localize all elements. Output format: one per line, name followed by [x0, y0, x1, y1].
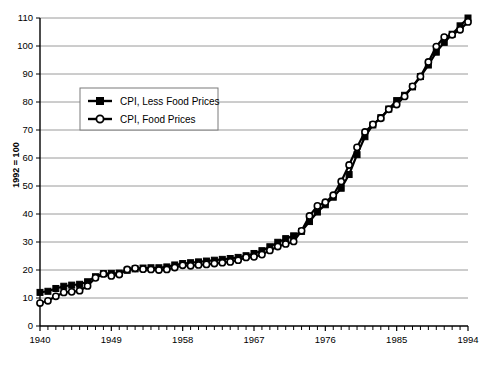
data-point: [45, 288, 51, 294]
data-point: [156, 267, 162, 273]
x-tick-label-1994: 1994: [457, 334, 478, 345]
data-point: [53, 285, 59, 291]
data-point: [346, 162, 352, 168]
cpi-line-chart: 1992 = 100 1940194919581967197619851994 …: [0, 0, 482, 367]
data-point: [306, 213, 312, 219]
x-tick-label-1949: 1949: [101, 334, 122, 345]
legend-label: CPI, Food Prices: [120, 114, 196, 125]
data-point: [69, 282, 75, 288]
data-point: [441, 34, 447, 40]
data-point: [267, 247, 273, 253]
data-point: [394, 101, 400, 107]
data-point: [219, 260, 225, 266]
data-point: [187, 263, 193, 269]
x-tick-label-1967: 1967: [243, 334, 264, 345]
data-point: [298, 228, 304, 234]
data-point: [291, 238, 297, 244]
data-point: [164, 266, 170, 272]
data-point: [354, 144, 360, 150]
data-point: [275, 243, 281, 249]
data-point: [203, 261, 209, 267]
y-tick-label-90: 90: [22, 68, 33, 79]
data-point: [251, 254, 257, 260]
data-point: [77, 288, 83, 294]
data-point: [180, 262, 186, 268]
data-point: [37, 300, 43, 306]
data-point: [227, 259, 233, 265]
data-point: [378, 115, 384, 121]
data-point: [45, 298, 51, 304]
data-point: [314, 203, 320, 209]
x-tick-group: 1940194919581967197619851994: [29, 326, 478, 345]
series-cpi-food: [37, 19, 471, 306]
legend-label: CPI, Less Food Prices: [120, 96, 219, 107]
y-tick-label-60: 60: [22, 152, 33, 163]
data-point: [243, 254, 249, 260]
data-point: [116, 271, 122, 277]
data-point: [330, 192, 336, 198]
data-point: [61, 289, 67, 295]
x-tick-label-1985: 1985: [386, 334, 407, 345]
data-point: [37, 289, 43, 295]
data-point: [61, 283, 67, 289]
data-point: [449, 32, 455, 38]
y-tick-label-40: 40: [22, 208, 33, 219]
y-tick-label-70: 70: [22, 124, 33, 135]
data-point: [346, 172, 352, 178]
data-point: [322, 199, 328, 205]
data-point: [77, 281, 83, 287]
y-tick-label-110: 110: [18, 12, 33, 23]
data-point: [362, 129, 368, 135]
data-point: [386, 106, 392, 112]
data-point: [92, 275, 98, 281]
y-tick-group: 0102030405060708090100110: [17, 12, 40, 331]
chart-legend: CPI, Less Food PricesCPI, Food Prices: [80, 88, 219, 130]
data-point: [140, 266, 146, 272]
data-point: [108, 273, 114, 279]
legend-marker-open-circle-icon: [96, 115, 103, 122]
data-point: [172, 264, 178, 270]
data-point: [283, 241, 289, 247]
data-point: [53, 293, 59, 299]
chart-canvas: 1940194919581967197619851994 01020304050…: [0, 0, 482, 367]
series-group: [37, 15, 471, 306]
data-point: [84, 283, 90, 289]
data-point: [259, 252, 265, 258]
y-tick-label-50: 50: [22, 180, 33, 191]
data-point: [409, 83, 415, 89]
data-point: [425, 59, 431, 65]
data-point: [100, 271, 106, 277]
data-point: [211, 260, 217, 266]
y-tick-label-10: 10: [22, 292, 33, 303]
data-point: [338, 178, 344, 184]
y-tick-label-80: 80: [22, 96, 33, 107]
data-point: [132, 265, 138, 271]
data-point: [148, 266, 154, 272]
data-point: [401, 93, 407, 99]
data-point: [235, 257, 241, 263]
data-point: [124, 266, 130, 272]
y-tick-label-20: 20: [22, 264, 33, 275]
data-point: [370, 121, 376, 127]
data-point: [465, 19, 471, 25]
y-tick-label-100: 100: [17, 40, 33, 51]
series-line: [40, 22, 468, 303]
legend-marker-filled-square-icon: [97, 98, 104, 105]
x-tick-label-1976: 1976: [315, 334, 336, 345]
data-point: [417, 73, 423, 79]
data-point: [433, 43, 439, 49]
y-tick-label-30: 30: [22, 236, 33, 247]
x-tick-label-1958: 1958: [172, 334, 193, 345]
data-point: [457, 27, 463, 33]
y-tick-label-0: 0: [28, 320, 33, 331]
axes-group: [40, 18, 468, 326]
x-tick-label-1940: 1940: [29, 334, 50, 345]
data-point: [195, 262, 201, 268]
data-point: [69, 289, 75, 295]
